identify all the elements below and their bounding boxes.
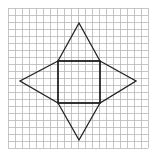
pyramid-net-diagram xyxy=(0,0,152,156)
